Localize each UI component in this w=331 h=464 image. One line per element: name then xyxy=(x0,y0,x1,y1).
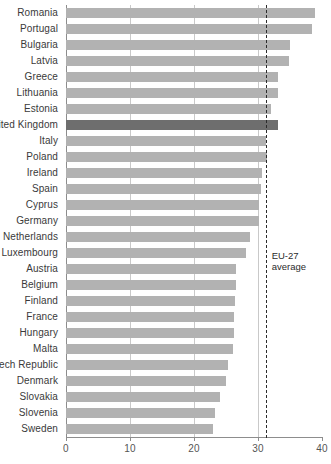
eu27-average-label-line2: average xyxy=(272,261,306,272)
bar-czech-republic xyxy=(66,360,228,370)
bar-row xyxy=(66,136,322,146)
bar-lithuania xyxy=(66,88,278,98)
bar-austria xyxy=(66,264,236,274)
bar-belgium xyxy=(66,280,236,290)
category-label-ireland: Ireland xyxy=(27,167,58,178)
plot-area xyxy=(66,5,322,437)
bar-row xyxy=(66,392,322,402)
category-label-malta: Malta xyxy=(33,343,58,354)
category-label-netherlands: Netherlands xyxy=(3,231,58,242)
bar-germany xyxy=(66,216,259,226)
category-label-estonia: Estonia xyxy=(24,103,58,114)
bar-row xyxy=(66,184,322,194)
bar-row xyxy=(66,328,322,338)
bar-row xyxy=(66,296,322,306)
bar-bulgaria xyxy=(66,40,290,50)
bar-france xyxy=(66,312,234,322)
x-tick-mark-0 xyxy=(66,437,67,441)
x-tick-label-10: 10 xyxy=(124,443,136,454)
bar-row xyxy=(66,280,322,290)
bar-row xyxy=(66,216,322,226)
bar-chart: RomaniaPortugalBulgariaLatviaGreeceLithu… xyxy=(0,0,331,464)
category-label-portugal: Portugal xyxy=(20,23,58,34)
category-label-slovenia: Slovenia xyxy=(19,407,58,418)
x-tick-mark-30 xyxy=(258,437,259,441)
x-tick-mark-40 xyxy=(322,437,323,441)
bar-row xyxy=(66,88,322,98)
bar-ireland xyxy=(66,168,262,178)
category-label-lithuania: Lithuania xyxy=(17,87,59,98)
bar-sweden xyxy=(66,424,213,434)
category-label-germany: Germany xyxy=(16,215,58,226)
category-label-romania: Romania xyxy=(17,7,58,18)
bar-estonia xyxy=(66,104,271,114)
category-label-denmark: Denmark xyxy=(17,375,58,386)
bar-portugal xyxy=(66,24,312,34)
category-label-czech-republic: Czech Republic xyxy=(0,359,58,370)
x-tick-mark-20 xyxy=(194,437,195,441)
bar-row xyxy=(66,360,322,370)
category-label-slovakia: Slovakia xyxy=(19,391,58,402)
category-label-finland: Finland xyxy=(25,295,59,306)
bar-spain xyxy=(66,184,261,194)
x-tick-label-40: 40 xyxy=(316,443,328,454)
category-label-poland: Poland xyxy=(26,151,58,162)
bar-row xyxy=(66,168,322,178)
bar-italy xyxy=(66,136,266,146)
bar-latvia xyxy=(66,56,289,66)
bar-row xyxy=(66,120,322,130)
category-label-column: RomaniaPortugalBulgariaLatviaGreeceLithu… xyxy=(0,0,62,464)
bar-row xyxy=(66,24,322,34)
category-label-spain: Spain xyxy=(32,183,58,194)
bar-cyprus xyxy=(66,200,259,210)
bar-luxembourg xyxy=(66,248,246,258)
bar-row xyxy=(66,344,322,354)
bar-romania xyxy=(66,8,315,18)
bar-slovenia xyxy=(66,408,215,418)
bar-row xyxy=(66,8,322,18)
x-tick-label-0: 0 xyxy=(63,443,69,454)
bar-denmark xyxy=(66,376,226,386)
bar-row xyxy=(66,104,322,114)
bar-poland xyxy=(66,152,267,162)
bar-row xyxy=(66,408,322,418)
bar-row xyxy=(66,424,322,434)
category-label-france: France xyxy=(26,311,58,322)
category-label-hungary: Hungary xyxy=(20,327,59,338)
category-label-greece: Greece xyxy=(25,71,58,82)
x-tick-label-20: 20 xyxy=(188,443,200,454)
bar-hungary xyxy=(66,328,234,338)
category-label-sweden: Sweden xyxy=(21,423,58,434)
bar-row xyxy=(66,312,322,322)
x-tick-label-30: 30 xyxy=(252,443,264,454)
category-label-united-kingdom: United Kingdom xyxy=(0,119,58,130)
bar-united-kingdom xyxy=(66,120,278,130)
bar-row xyxy=(66,56,322,66)
x-tick-mark-10 xyxy=(130,437,131,441)
category-label-luxembourg: Luxembourg xyxy=(1,247,58,258)
bar-row xyxy=(66,376,322,386)
bar-row xyxy=(66,152,322,162)
bar-row xyxy=(66,232,322,242)
bar-row xyxy=(66,40,322,50)
category-label-latvia: Latvia xyxy=(31,55,58,66)
bar-slovakia xyxy=(66,392,220,402)
bar-row xyxy=(66,72,322,82)
category-label-cyprus: Cyprus xyxy=(26,199,58,210)
category-label-bulgaria: Bulgaria xyxy=(21,39,59,50)
category-label-belgium: Belgium xyxy=(21,279,58,290)
bar-finland xyxy=(66,296,235,306)
eu27-average-label-line1: EU-27 xyxy=(272,250,306,261)
bar-greece xyxy=(66,72,278,82)
eu27-average-label: EU-27 average xyxy=(272,250,306,272)
bar-row xyxy=(66,200,322,210)
category-label-italy: Italy xyxy=(39,135,58,146)
bar-netherlands xyxy=(66,232,250,242)
category-label-austria: Austria xyxy=(26,263,58,274)
bar-malta xyxy=(66,344,233,354)
eu27-average-line xyxy=(266,5,267,438)
